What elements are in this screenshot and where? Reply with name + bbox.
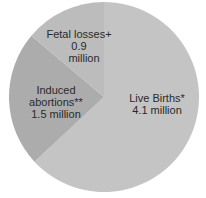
label-induced-line2: abortions** [20,96,92,108]
label-fetal-losses-unit: million [44,52,114,64]
label-live-births: Live Births* 4.1 million [118,92,196,116]
label-live-births-name: Live Births* [118,92,196,104]
label-induced-value: 1.5 million [20,108,92,120]
label-induced-line1: Induced [20,84,92,96]
label-fetal-losses-value: 0.9 [44,40,114,52]
label-fetal-losses: Fetal losses+ 0.9 million [44,28,114,64]
label-fetal-losses-name: Fetal losses+ [44,28,114,40]
label-induced-abortions: Inducedabortions**1.5 million [20,84,92,120]
label-live-births-value: 4.1 million [118,104,196,116]
